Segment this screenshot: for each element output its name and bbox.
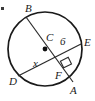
center-point-dot — [43, 47, 48, 52]
label-point-a: A — [70, 85, 77, 96]
label-point-f: F — [55, 70, 62, 81]
label-point-e: E — [84, 37, 91, 48]
label-segment-fe: 6 — [60, 36, 66, 47]
chord-ba-line — [26, 17, 73, 82]
label-point-b: B — [25, 3, 32, 14]
label-segment-df: x — [33, 58, 38, 69]
label-center-c: C — [46, 32, 53, 43]
geometry-figure: B C 6 E x F D A — [0, 0, 95, 101]
label-point-d: D — [9, 76, 17, 87]
